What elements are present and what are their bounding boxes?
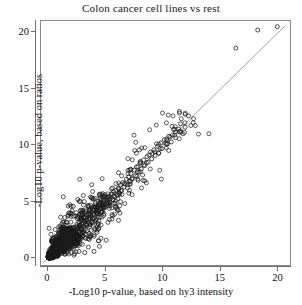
data-point [81, 194, 85, 198]
data-point [256, 28, 260, 32]
data-point [178, 122, 182, 126]
data-point [142, 158, 146, 162]
y-axis-label: -Log10 p-value, based on ratios [33, 41, 44, 241]
data-point [164, 146, 168, 150]
data-point [127, 191, 131, 195]
data-point [207, 132, 211, 136]
y-tick-label: 15 [19, 82, 30, 93]
data-point [123, 202, 127, 206]
data-point [114, 182, 118, 186]
chart-title: Colon cancer cell lines vs rest [0, 2, 302, 14]
data-point [47, 226, 51, 230]
data-point [100, 177, 104, 181]
y-tick-label: 10 [19, 139, 30, 150]
data-point [99, 236, 103, 240]
data-point [91, 190, 95, 194]
data-point [148, 128, 152, 132]
y-tick-label: 0 [24, 252, 29, 263]
data-point [104, 238, 108, 242]
data-point [169, 140, 173, 144]
x-axis-line [40, 266, 291, 267]
data-point [90, 183, 94, 187]
x-tick-label: 0 [44, 272, 49, 283]
data-point [117, 218, 121, 222]
x-tick-mark [105, 267, 106, 271]
data-point [159, 177, 163, 181]
data-point [97, 239, 101, 243]
x-tick-mark [47, 267, 48, 271]
data-point [97, 244, 101, 248]
data-point [116, 171, 120, 175]
data-point [78, 177, 82, 181]
x-tick-label: 20 [272, 272, 283, 283]
data-point [118, 204, 122, 208]
data-point [113, 201, 117, 205]
y-tick-mark [31, 31, 35, 32]
data-point [167, 148, 171, 152]
x-tick-label: 10 [157, 272, 168, 283]
x-axis-label: -Log10 p-value, based on hy3 intensity [0, 286, 302, 297]
data-point [49, 232, 53, 236]
data-point [134, 140, 138, 144]
x-tick-label: 15 [215, 272, 226, 283]
data-point [148, 167, 152, 171]
data-point [197, 132, 201, 136]
data-point [130, 158, 134, 162]
data-point [150, 157, 154, 161]
data-point [192, 117, 196, 121]
data-point [171, 114, 175, 118]
data-point [140, 186, 144, 190]
data-point [193, 124, 197, 128]
y-tick-label: 20 [19, 26, 30, 37]
scatter-plot-figure: Colon cancer cell lines vs rest 05101520… [0, 0, 302, 305]
data-point [92, 249, 96, 253]
data-point [126, 157, 130, 161]
data-point [83, 251, 87, 255]
data-point [183, 125, 187, 129]
y-tick-mark [31, 257, 35, 258]
data-point [59, 215, 63, 219]
data-point [120, 174, 124, 178]
data-point [128, 188, 132, 192]
x-tick-mark [220, 267, 221, 271]
x-tick-label: 5 [102, 272, 107, 283]
y-tick-label: 5 [24, 195, 29, 206]
data-point [166, 113, 170, 117]
data-point [141, 173, 145, 177]
data-point [164, 121, 168, 125]
data-point [53, 227, 57, 231]
data-point [86, 245, 90, 249]
data-point [275, 25, 279, 29]
data-point [132, 133, 136, 137]
data-point [161, 111, 165, 115]
data-point [179, 117, 183, 121]
data-point [177, 137, 181, 141]
data-point [61, 195, 65, 199]
x-tick-mark [162, 267, 163, 271]
data-point [187, 114, 191, 118]
data-point [234, 46, 238, 50]
data-point [154, 123, 158, 127]
x-tick-mark [277, 267, 278, 271]
data-point [191, 121, 195, 125]
data-point [158, 168, 162, 172]
data-point [124, 177, 128, 181]
data-point [69, 220, 73, 224]
plot-area [40, 20, 291, 266]
scatter-canvas [41, 21, 290, 265]
